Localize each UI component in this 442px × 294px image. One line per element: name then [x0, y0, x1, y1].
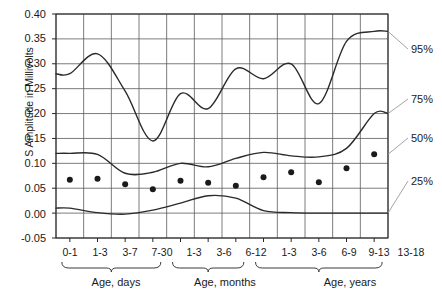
axis-ticks-layer [52, 14, 374, 242]
grid-layer [56, 14, 388, 238]
group-brackets-layer [62, 262, 382, 272]
chart-canvas [0, 0, 442, 294]
s-amplitude-percentile-chart: S Amplitude in Millivolts 0.40 0.35 0.30… [0, 0, 442, 294]
leader-lines-layer [388, 31, 408, 213]
